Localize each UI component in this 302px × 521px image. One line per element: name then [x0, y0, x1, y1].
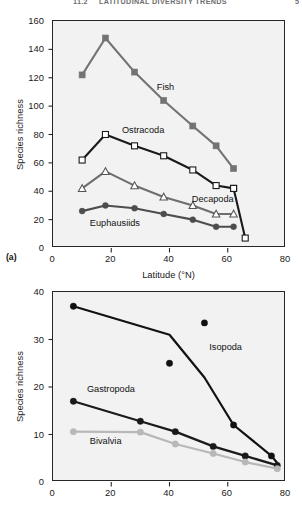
y-tick-label: 20 [0, 213, 44, 224]
y-axis-title-a: Species richness [14, 99, 25, 170]
y-tick-label: 40 [0, 185, 44, 196]
figure-page: 11.2 LATITUDINAL DIVERSITY TRENDS 5 0204… [0, 0, 302, 521]
x-tick-label: 40 [163, 253, 173, 264]
x-tick-label: 0 [49, 487, 54, 498]
panel-tag-a: (a) [6, 252, 17, 262]
y-tick-label: 10 [0, 428, 44, 439]
y-tick-label: 0 [0, 476, 44, 487]
y-tick-label: 30 [0, 333, 44, 344]
y-axis-title-b: Species richness [14, 351, 25, 422]
x-tick-label: 20 [105, 253, 115, 264]
y-tick-label: 160 [0, 15, 44, 26]
series-label-gastropoda: Gastropoda [87, 384, 135, 394]
series-label-isopoda: Isopoda [209, 342, 242, 352]
chart-panel-a: 020406080100120140160 020406080 FishOstr… [0, 12, 302, 262]
y-tick-label: 0 [0, 242, 44, 253]
x-tick-label: 80 [280, 253, 290, 264]
x-tick-label: 80 [280, 487, 290, 498]
series-label-decapoda: Decapoda [192, 194, 234, 204]
series-label-ostracoda: Ostracoda [122, 125, 164, 135]
x-axis-title-a: Latitude (°N) [142, 269, 195, 280]
x-tick-label: 20 [105, 487, 115, 498]
chart-canvas-a [53, 21, 286, 248]
plot-area-a [52, 20, 285, 247]
series-label-euphausiids: Euphausiids [90, 218, 140, 228]
header-title: LATITUDINAL DIVERSITY TRENDS [99, 0, 227, 6]
header-section-number: 11.2 [73, 0, 88, 6]
x-tick-label: 60 [222, 253, 232, 264]
y-tick-label: 140 [0, 43, 44, 54]
x-tick-label: 40 [163, 487, 173, 498]
header-page-number: 5 [295, 0, 299, 6]
series-label-fish: Fish [157, 82, 174, 92]
running-header: 11.2 LATITUDINAL DIVERSITY TRENDS 5 [0, 0, 302, 9]
x-tick-label: 60 [222, 487, 232, 498]
chart-panel-b: 010203040 020406080 IsopodaGastropodaBiv… [0, 283, 302, 521]
y-tick-label: 120 [0, 71, 44, 82]
series-label-bivalvia: Bivalvia [90, 436, 122, 446]
x-tick-label: 0 [49, 253, 54, 264]
y-tick-label: 40 [0, 286, 44, 297]
